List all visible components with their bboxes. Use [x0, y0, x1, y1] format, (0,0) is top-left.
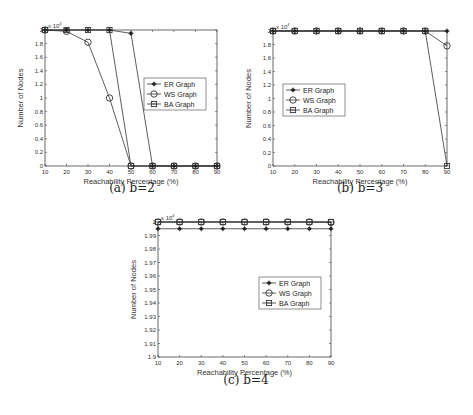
y-tick-label: 1.92 — [144, 327, 156, 333]
chart-a-plot: 10203040506070809000.20.40.60.811.21.41.… — [0, 0, 236, 200]
x-tick-label: 90 — [328, 360, 335, 366]
chart-a: 10203040506070809000.20.40.60.811.21.41.… — [0, 0, 236, 200]
legend-entry: WS Graph — [303, 97, 336, 105]
chart-c-plot: 1020304050607080901.91.911.921.931.941.9… — [112, 200, 352, 400]
legend: ER GraphWS GraphBA Graph — [144, 78, 206, 110]
y-tick-label: 1.6 — [35, 54, 44, 60]
x-tick-label: 50 — [357, 169, 364, 175]
legend: ER GraphWS GraphBA Graph — [283, 84, 345, 116]
y-tick-label: 1.96 — [144, 273, 156, 279]
x-tick-label: 20 — [291, 169, 298, 175]
x-tick-label: 80 — [192, 169, 199, 175]
y-tick-label: 1 — [268, 96, 272, 102]
y-tick-label: 0.2 — [263, 150, 272, 156]
caption-c: (c) b=4 — [186, 373, 306, 387]
y-axis-label: Number of Nodes — [129, 260, 138, 319]
y-tick-label: 1.4 — [263, 69, 272, 75]
x-tick-label: 60 — [263, 360, 270, 366]
y-tick-label: 0.6 — [35, 122, 44, 128]
y-multiplier: x 104 — [276, 22, 290, 30]
y-tick-label: 1.98 — [144, 246, 156, 252]
x-tick-label: 80 — [422, 169, 429, 175]
x-tick-label: 10 — [155, 360, 162, 366]
x-tick-label: 30 — [313, 169, 320, 175]
y-tick-label: 1 — [40, 95, 44, 101]
legend-entry: WS Graph — [164, 91, 197, 99]
legend-entry: BA Graph — [303, 107, 333, 115]
x-tick-label: 20 — [176, 360, 183, 366]
y-tick-label: 1.95 — [144, 287, 156, 293]
y-tick-label: 1.6 — [263, 55, 272, 61]
y-tick-label: 0.8 — [263, 109, 272, 115]
legend-entry: WS Graph — [279, 290, 312, 298]
legend: ER GraphWS GraphBA Graph — [259, 277, 321, 309]
legend-entry: BA Graph — [164, 101, 194, 109]
chart-b: 10203040506070809000.20.40.60.811.21.41.… — [236, 0, 473, 200]
x-tick-label: 30 — [198, 360, 205, 366]
legend-entry: ER Graph — [279, 280, 310, 288]
y-multiplier: x 104 — [161, 213, 175, 221]
y-multiplier: x 104 — [48, 21, 62, 29]
legend-entry: BA Graph — [279, 300, 309, 308]
y-tick-label: 1.4 — [35, 68, 44, 74]
caption-b: (b) b=3 — [300, 181, 420, 195]
x-tick-label: 10 — [270, 169, 277, 175]
y-tick-label: 0.6 — [263, 123, 272, 129]
y-tick-label: 1.97 — [144, 260, 156, 266]
x-tick-label: 70 — [284, 360, 291, 366]
x-tick-label: 30 — [85, 169, 92, 175]
y-tick-label: 1.8 — [263, 42, 272, 48]
x-tick-label: 20 — [63, 169, 70, 175]
legend-entry: ER Graph — [303, 87, 334, 95]
x-tick-label: 50 — [128, 169, 135, 175]
x-tick-label: 80 — [306, 360, 313, 366]
y-tick-label: 1.94 — [144, 300, 156, 306]
y-axis-label: Number of Nodes — [244, 69, 253, 128]
y-tick-label: 1.2 — [263, 82, 272, 88]
legend-entry: ER Graph — [164, 81, 195, 89]
x-tick-label: 50 — [241, 360, 248, 366]
y-tick-label: 1.8 — [35, 41, 44, 47]
x-tick-label: 90 — [214, 169, 221, 175]
caption-a: (a) b=2 — [72, 181, 192, 195]
y-tick-label: 1.99 — [144, 233, 156, 239]
x-tick-label: 60 — [149, 169, 156, 175]
y-axis-label: Number of Nodes — [16, 68, 25, 127]
y-tick-label: 0.2 — [35, 149, 44, 155]
x-tick-label: 60 — [378, 169, 385, 175]
x-tick-label: 90 — [444, 169, 451, 175]
y-tick-label: 1.9 — [148, 354, 157, 360]
x-tick-label: 10 — [42, 169, 49, 175]
x-tick-label: 40 — [106, 169, 113, 175]
x-tick-label: 40 — [220, 360, 227, 366]
y-tick-label: 0.4 — [35, 136, 44, 142]
y-tick-label: 0.8 — [35, 109, 44, 115]
chart-c: 1020304050607080901.91.911.921.931.941.9… — [112, 200, 352, 400]
y-tick-label: 1.91 — [144, 341, 156, 347]
y-tick-label: 0.4 — [263, 136, 272, 142]
chart-b-plot: 10203040506070809000.20.40.60.811.21.41.… — [236, 0, 473, 200]
x-tick-label: 70 — [400, 169, 407, 175]
x-tick-label: 70 — [171, 169, 178, 175]
y-tick-label: 1.93 — [144, 314, 156, 320]
y-tick-label: 1.2 — [35, 81, 44, 87]
x-tick-label: 40 — [335, 169, 342, 175]
